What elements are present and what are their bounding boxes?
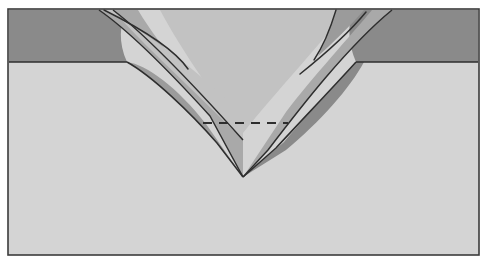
cross-section-diagram [0,0,489,264]
figure-container: Geological cross-section of a doubly-ver… [0,0,489,264]
